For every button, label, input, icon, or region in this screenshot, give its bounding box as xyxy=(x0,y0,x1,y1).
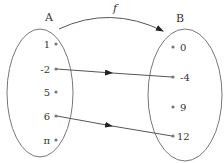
svg-text:0: 0 xyxy=(180,42,186,53)
set-b-element: 9 xyxy=(171,102,186,113)
svg-text:12: 12 xyxy=(177,131,190,142)
element-dot xyxy=(171,45,174,48)
mapping-line xyxy=(112,126,172,136)
set-b-element: -4 xyxy=(171,72,189,83)
mapping-arrow-6-to-12 xyxy=(57,116,112,126)
set-a-ellipse xyxy=(7,29,73,157)
function-label: f xyxy=(112,2,119,15)
set-b-element: 0 xyxy=(171,42,186,53)
set-a-element: π xyxy=(43,135,57,146)
svg-text:5: 5 xyxy=(44,87,50,98)
element-dot xyxy=(54,138,57,141)
svg-text:6: 6 xyxy=(44,111,50,122)
set-b-label: B xyxy=(176,12,184,25)
svg-text:1: 1 xyxy=(44,39,50,50)
set-a-element: 1 xyxy=(44,39,58,50)
set-a-element: 5 xyxy=(44,87,58,98)
mapping-line xyxy=(112,73,172,77)
set-a-element: 6 xyxy=(44,111,58,122)
set-b-element: 12 xyxy=(171,131,189,142)
mapping-arrow-neg2-to-neg4 xyxy=(57,69,112,73)
function-mapping-diagram: A B f 1 -2 5 6 π 0 xyxy=(0,0,224,163)
function-f-arrow xyxy=(59,17,163,31)
svg-text:π: π xyxy=(43,135,50,146)
element-dot xyxy=(171,105,174,108)
svg-text:-2: -2 xyxy=(40,64,50,75)
svg-text:9: 9 xyxy=(180,102,186,113)
set-a-label: A xyxy=(44,11,54,24)
svg-text:-4: -4 xyxy=(180,72,190,83)
set-a-element: -2 xyxy=(40,64,57,75)
element-dot xyxy=(54,90,57,93)
element-dot xyxy=(54,42,57,45)
